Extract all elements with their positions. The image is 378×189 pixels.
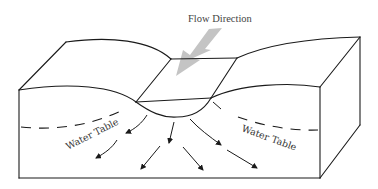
- water-table-line: [21, 109, 318, 130]
- groundwater-flow-arrows: [96, 102, 257, 170]
- flow-direction-arrow-icon: [176, 28, 222, 76]
- water-table-label-right: Water Table: [240, 123, 298, 153]
- losing-stream-diagram: Flow Direction: [0, 0, 378, 189]
- flow-direction-label: Flow Direction: [188, 13, 253, 24]
